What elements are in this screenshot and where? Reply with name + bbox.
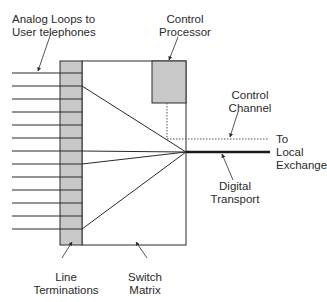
control-processor-label: Control Processor — [150, 13, 220, 39]
label-line: Exchange — [276, 159, 327, 172]
to-local-exchange-label: To Local Exchange — [276, 133, 327, 172]
label-line: Analog Loops to — [12, 13, 96, 26]
switch-matrix-label: Switch Matrix — [120, 271, 170, 297]
label-line: Control — [220, 89, 280, 102]
label-line: Control — [150, 13, 220, 26]
control-channel-label: Control Channel — [220, 89, 280, 115]
label-line: To — [276, 133, 327, 146]
label-line: Channel — [220, 102, 280, 115]
label-line: Transport — [205, 193, 265, 206]
label-line: Matrix — [120, 284, 170, 297]
label-line: Switch — [120, 271, 170, 284]
line-terminations-block — [60, 61, 82, 245]
label-line: Local — [276, 146, 327, 159]
line-terminations-label: Line Terminations — [32, 271, 100, 297]
label-line: Terminations — [32, 284, 100, 297]
label-line: Line — [32, 271, 100, 284]
label-line: User telephones — [12, 26, 96, 39]
analog-loops-label: Analog Loops to User telephones — [12, 13, 96, 39]
label-line: Processor — [150, 26, 220, 39]
label-line: Digital — [205, 180, 265, 193]
control-processor-box — [152, 61, 186, 103]
digital-transport-label: Digital Transport — [205, 180, 265, 206]
